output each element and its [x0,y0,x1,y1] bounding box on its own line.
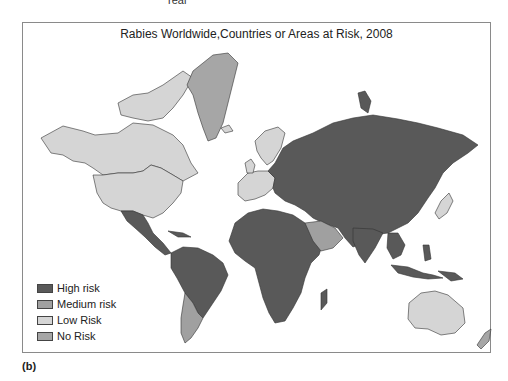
legend-item-high-risk: High risk [37,280,116,296]
legend-item-no-risk: No Risk [37,328,116,344]
region-australia [408,291,465,335]
map-figure: Rabies Worldwide,Countries or Areas at R… [22,22,491,353]
region-western-europe [238,171,275,201]
legend-item-low-risk: Low Risk [37,312,116,328]
region-new-guinea [438,271,463,281]
legend: High risk Medium risk Low Risk No Risk [37,280,116,344]
panel-label: (b) [22,360,36,372]
region-caribbean [168,231,191,237]
region-arctic-islands [118,71,193,121]
legend-item-medium-risk: Medium risk [37,296,116,312]
region-japan [435,193,453,219]
legend-swatch-high-risk [37,284,53,293]
cropped-caption-fragment: real [168,0,186,6]
region-philippines [423,245,431,261]
legend-label: No Risk [57,330,96,342]
region-india [353,228,383,263]
region-south-america-north [171,247,228,318]
legend-swatch-no-risk [37,332,53,341]
region-new-zealand [477,329,491,349]
legend-swatch-low-risk [37,316,53,325]
region-iceland [221,125,233,133]
region-uk [245,159,255,173]
legend-label: High risk [57,282,100,294]
region-novaya-zemlya [358,91,371,113]
region-canada-alaska [41,123,198,181]
legend-swatch-medium-risk [37,300,53,309]
region-indonesia [391,265,443,279]
region-madagascar [321,289,327,310]
region-mexico-central-america [121,211,171,255]
legend-label: Medium risk [57,298,116,310]
legend-label: Low Risk [57,314,102,326]
region-southeast-asia [387,233,405,259]
